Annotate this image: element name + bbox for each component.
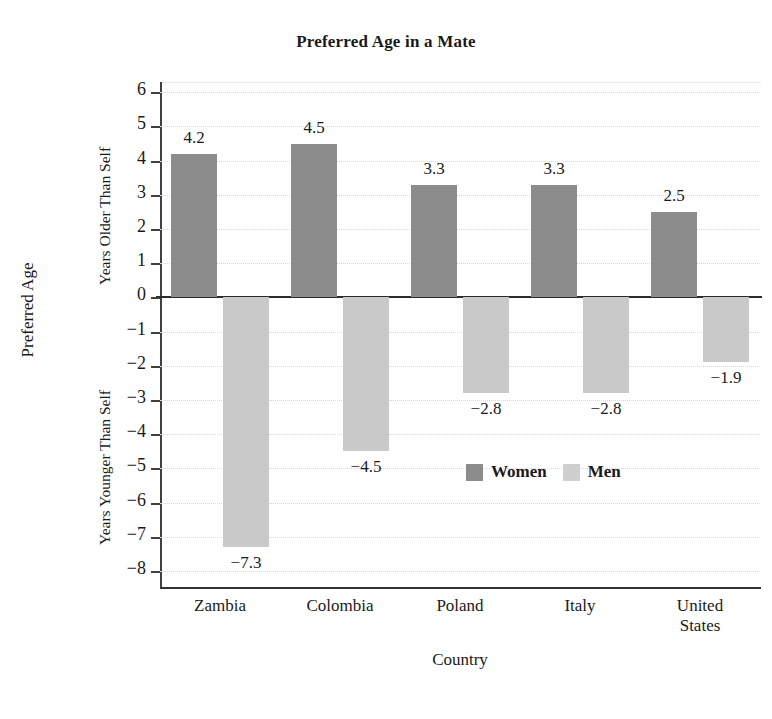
- y-tick-mark: [151, 92, 160, 94]
- x-category-label: Zambia: [160, 596, 280, 616]
- bar-women[interactable]: [531, 185, 577, 298]
- y-tick-label: 0: [98, 284, 146, 305]
- chart-title: Preferred Age in a Mate: [0, 32, 772, 52]
- y-tick-mark: [151, 195, 160, 197]
- y-tick-mark: [151, 434, 160, 436]
- gridline: [160, 126, 760, 127]
- bar-women[interactable]: [651, 212, 697, 297]
- x-category-label: Poland: [400, 596, 520, 616]
- y-tick-mark: [151, 229, 160, 231]
- y-tick-label: 6: [98, 79, 146, 100]
- legend-swatch-women-icon: [466, 464, 483, 481]
- bar-men[interactable]: [223, 297, 269, 547]
- bar-value-label-men: −1.9: [686, 368, 766, 388]
- y-tick-label: 3: [98, 182, 146, 203]
- y-tick-label: −2: [98, 353, 146, 374]
- y-axis-outer-title-text: Preferred Age: [18, 190, 38, 430]
- y-tick-mark: [151, 537, 160, 539]
- x-category-label: Italy: [520, 596, 640, 616]
- legend-item-women[interactable]: Women: [466, 462, 547, 482]
- y-tick-mark: [151, 161, 160, 163]
- bar-value-label-women: 3.3: [514, 159, 594, 179]
- y-tick-mark: [151, 263, 160, 265]
- y-tick-mark: [151, 468, 160, 470]
- bar-women[interactable]: [171, 154, 217, 298]
- chart-legend: Women Men: [466, 462, 621, 482]
- x-category-label: Colombia: [280, 596, 400, 616]
- y-tick-label: −6: [98, 490, 146, 511]
- y-tick-mark: [151, 297, 160, 299]
- plot-area: 4.2−7.34.5−4.53.3−2.83.3−2.82.5−1.9: [160, 82, 760, 588]
- y-tick-mark: [151, 571, 160, 573]
- y-tick-label: −3: [98, 387, 146, 408]
- legend-label-men: Men: [588, 462, 621, 482]
- bar-value-label-men: −7.3: [206, 553, 286, 573]
- y-tick-label: −5: [98, 455, 146, 476]
- y-tick-label: 5: [98, 113, 146, 134]
- bar-value-label-women: 4.5: [274, 118, 354, 138]
- x-category-label: United States: [640, 596, 760, 635]
- gridline: [160, 92, 760, 93]
- bar-men[interactable]: [463, 297, 509, 393]
- y-tick-mark: [151, 366, 160, 368]
- bar-value-label-women: 4.2: [154, 128, 234, 148]
- y-tick-mark: [151, 400, 160, 402]
- bar-value-label-women: 2.5: [634, 186, 714, 206]
- y-axis-outer-title: Preferred Age: [18, 0, 38, 190]
- y-tick-label: −4: [98, 421, 146, 442]
- bar-men[interactable]: [703, 297, 749, 362]
- bar-value-label-men: −2.8: [566, 399, 646, 419]
- legend-swatch-men-icon: [563, 464, 580, 481]
- y-tick-mark: [151, 126, 160, 128]
- y-tick-label: 1: [98, 250, 146, 271]
- bar-value-label-men: −4.5: [326, 457, 406, 477]
- y-tick-label: 2: [98, 216, 146, 237]
- y-tick-mark: [151, 503, 160, 505]
- legend-item-men[interactable]: Men: [563, 462, 621, 482]
- x-axis-title: Country: [160, 650, 760, 670]
- y-tick-label: −8: [98, 558, 146, 579]
- chart-figure: Preferred Age in a Mate Preferred Age Ye…: [0, 0, 772, 719]
- bar-women[interactable]: [291, 144, 337, 298]
- bar-women[interactable]: [411, 185, 457, 298]
- bar-value-label-women: 3.3: [394, 159, 474, 179]
- bar-men[interactable]: [583, 297, 629, 393]
- legend-label-women: Women: [491, 462, 547, 482]
- y-tick-mark: [151, 332, 160, 334]
- y-tick-label: −7: [98, 524, 146, 545]
- y-tick-label: 4: [98, 148, 146, 169]
- bar-men[interactable]: [343, 297, 389, 451]
- bar-value-label-men: −2.8: [446, 399, 526, 419]
- y-tick-label: −1: [98, 319, 146, 340]
